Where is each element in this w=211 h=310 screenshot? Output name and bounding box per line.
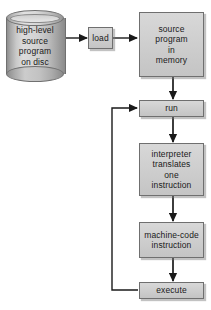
cylinder-top-ellipse — [6, 10, 64, 26]
source-memory-line-1: source — [158, 24, 184, 35]
run-line-1: run — [165, 103, 178, 114]
node-run: run — [139, 100, 204, 117]
node-source-program-on-disc: high-level source program on disc — [6, 10, 64, 82]
node-interpreter-translates: interpreter translates one instruction — [139, 143, 204, 196]
source-memory-line-2: program — [155, 34, 187, 45]
load-line-1: load — [92, 33, 108, 44]
node-label-disc: high-level source program on disc — [6, 25, 64, 67]
source-memory-line-4: memory — [156, 55, 187, 66]
disc-line-3: program — [6, 46, 64, 57]
disc-line-2: source — [6, 36, 64, 47]
interpreter-line-2: translates — [153, 159, 191, 170]
node-load: load — [88, 27, 113, 49]
interpreter-line-3: one — [164, 170, 178, 181]
disc-line-4: on disc — [6, 57, 64, 68]
disc-line-1: high-level — [6, 25, 64, 36]
execute-line-1: execute — [156, 285, 186, 296]
machine-code-line-2: instruction — [152, 240, 192, 251]
cylinder-top-inner-ellipse — [10, 14, 59, 23]
edge-execute-to-run-feedback — [112, 108, 138, 290]
node-execute: execute — [139, 282, 204, 299]
node-source-program-in-memory: source program in memory — [139, 12, 204, 77]
cylinder-bottom-ellipse — [6, 66, 64, 82]
node-machine-code-instruction: machine-code instruction — [139, 222, 204, 258]
interpreter-line-4: instruction — [152, 180, 192, 191]
source-memory-line-3: in — [168, 45, 175, 56]
machine-code-line-1: machine-code — [144, 230, 199, 241]
interpreter-line-1: interpreter — [152, 149, 192, 160]
interpreter-flow-diagram: high-level source program on disc load s… — [0, 0, 211, 310]
